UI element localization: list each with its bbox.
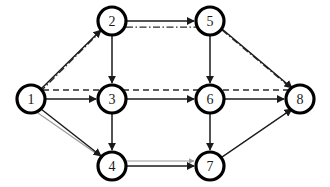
node-8[interactable]: 8	[286, 85, 314, 113]
node-8-circle[interactable]	[286, 85, 314, 113]
node-3-circle[interactable]	[98, 85, 126, 113]
node-4[interactable]: 4	[98, 152, 126, 180]
edge-ghost-1-4	[38, 113, 104, 159]
node-6[interactable]: 6	[196, 85, 224, 113]
node-layer: 1 2 3 4 5 6 7	[17, 7, 314, 180]
node-7-circle[interactable]	[196, 152, 224, 180]
node-5[interactable]: 5	[196, 7, 224, 35]
edge-1-2	[41, 30, 101, 89]
edge-layer	[41, 21, 292, 166]
graph-diagram: 1 2 3 4 5 6 7	[0, 0, 330, 187]
node-2[interactable]: 2	[98, 7, 126, 35]
edge-7-8	[222, 109, 292, 157]
edge-5-8	[222, 29, 292, 88]
node-3[interactable]: 3	[98, 85, 126, 113]
node-7[interactable]: 7	[196, 152, 224, 180]
edge-dashdot-1-2	[40, 31, 101, 92]
edge-1-4	[41, 109, 101, 156]
node-4-circle[interactable]	[98, 152, 126, 180]
graph-canvas: 1 2 3 4 5 6 7	[0, 0, 330, 187]
edge-dashdot-5-8	[222, 30, 292, 89]
node-5-circle[interactable]	[196, 7, 224, 35]
node-6-circle[interactable]	[196, 85, 224, 113]
node-1-circle[interactable]	[17, 85, 45, 113]
node-2-circle[interactable]	[98, 7, 126, 35]
overlay-layer	[38, 27, 292, 161]
node-1[interactable]: 1	[17, 85, 45, 113]
